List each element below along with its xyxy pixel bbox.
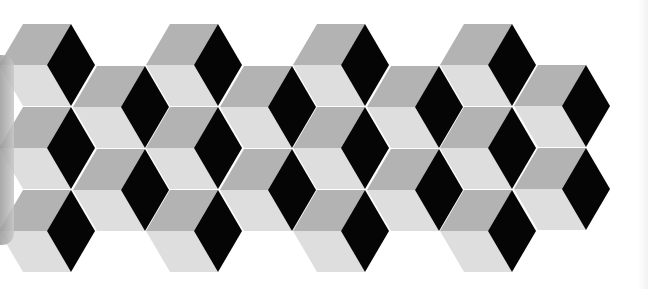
right-edge-fade: [638, 0, 648, 289]
tumbling-blocks-pattern: [0, 0, 648, 289]
left-edge-shadow: [0, 55, 14, 245]
cube: [0, 24, 95, 106]
